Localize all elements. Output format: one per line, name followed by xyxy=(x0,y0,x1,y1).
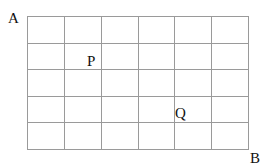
point-label-a: A xyxy=(8,11,19,26)
point-label-q: Q xyxy=(175,106,186,121)
point-label-p: P xyxy=(87,54,95,69)
point-label-b: B xyxy=(250,151,260,166)
grid xyxy=(0,0,273,166)
